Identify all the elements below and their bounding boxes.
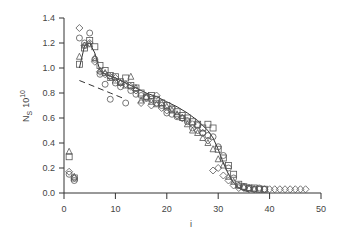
y-tick-label: 0.0 (42, 188, 55, 198)
svg-text:NS1010: NS1010 (19, 90, 33, 122)
y-tick-label: 1.2 (42, 38, 55, 48)
diamond-marker (210, 167, 217, 174)
x-tick-label: 0 (61, 204, 66, 214)
y-tick-label: 1.4 (42, 13, 55, 23)
diamond-marker (292, 186, 299, 193)
circle-marker (76, 35, 82, 41)
x-tick-label: 20 (162, 204, 172, 214)
x-tick-label: 10 (110, 204, 120, 214)
y-tick-label: 1.0 (42, 63, 55, 73)
fit-lines (79, 43, 249, 192)
circle-marker (107, 96, 113, 102)
x-tick-label: 40 (265, 204, 275, 214)
circle-marker (123, 100, 129, 106)
y-axis-label-base: 10 (21, 98, 31, 108)
circle-marker (102, 81, 108, 87)
x-tick-label: 30 (213, 204, 223, 214)
circle-marker (220, 153, 226, 159)
diamond-marker (271, 186, 278, 193)
y-axis-label-exp: 10 (19, 90, 26, 98)
y-axis-label: NS1010 (19, 90, 33, 122)
diamond-marker (297, 186, 304, 193)
circle-marker (87, 30, 93, 36)
diamond-marker (282, 186, 289, 193)
diamond-marker (287, 186, 294, 193)
y-tick-label: 0.2 (42, 163, 55, 173)
data-markers (66, 25, 309, 193)
diamond-marker (66, 168, 73, 175)
diamond-marker (276, 186, 283, 193)
diamond-marker (76, 25, 83, 32)
diamond-marker (302, 186, 309, 193)
x-tick-label: 50 (316, 204, 326, 214)
circle-marker (71, 178, 77, 184)
y-tick-label: 0.4 (42, 138, 55, 148)
y-tick-label: 0.8 (42, 88, 55, 98)
solid-fit-line (79, 43, 249, 192)
x-axis-label: i (190, 219, 192, 229)
y-axis-label-sub: S (26, 110, 33, 115)
y-tick-label: 0.6 (42, 113, 55, 123)
scatter-chart: 0.00.20.40.60.81.01.21.401020304050 i NS… (0, 0, 340, 239)
